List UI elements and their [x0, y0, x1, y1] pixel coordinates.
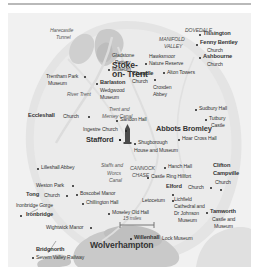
place-label-trentham-park-museum: Museum [48, 81, 67, 86]
place-marker-gladstone-pottery-museum [108, 69, 110, 71]
place-marker-moseley-old-hall [108, 213, 110, 215]
place-label-castle-ring-hillfort: Castle Ring Hillfort [151, 174, 191, 179]
place-label-wedgwood-museum: Museum [100, 95, 119, 100]
place-label-cheadle: Cheadle [132, 71, 153, 77]
place-label-lilleshall-abbey: Lilleshall Abbey [41, 165, 75, 170]
waterway-label-worcs: Worcs [107, 171, 121, 176]
place-label-eccleshall: Eccleshall [28, 113, 55, 119]
place-marker-hawksmoor-nature-reserve [145, 63, 147, 65]
place-label-croxden-abbey: Abbey [153, 92, 167, 97]
place-label-tamworth-museum: Museum [214, 224, 233, 229]
place-label-ironbridge: Ironbridge [26, 212, 53, 218]
place-label-lichfield-museum: Museum [178, 218, 197, 223]
place-marker-tutbury-castle [205, 119, 207, 121]
place-label-croxden: Croxden [153, 85, 172, 90]
place-label-tamworth-castle-and: Castle and [212, 217, 235, 222]
waterway-label-staffs-and: Staffs and [101, 163, 123, 168]
place-marker-severn-valley-railway [32, 257, 34, 259]
place-marker-elford-church [210, 187, 212, 189]
place-marker-wightwick-manor [90, 227, 92, 229]
place-marker-shugborough-house [134, 143, 136, 145]
place-marker-castle-ring-hillfort [147, 177, 149, 179]
region-label-cannock: CANNOCK [130, 166, 155, 171]
place-label-tutbury-castle: Castle [211, 123, 225, 128]
place-marker-trentham-park-museum [84, 76, 86, 78]
place-marker-ashbourne [199, 57, 201, 59]
place-marker-alton-towers [163, 72, 165, 74]
place-label-museum-gladstone: Museum [112, 67, 131, 72]
place-label-harecastle-tunnel: Tunnel [56, 35, 71, 40]
place-label-hoar-cross-hall: Hoar Cross Hall [182, 136, 216, 141]
place-marker-willenhall-lock-museum [130, 238, 132, 240]
place-label-trentham-park: Trentham Park [46, 74, 78, 79]
place-label-fenny-bentley: Fenny Bentley [200, 40, 238, 46]
place-marker-clifton-campville [220, 189, 222, 191]
place-label-abbots-bromley: Abbots Bromley [156, 125, 212, 133]
place-label-ashbourne-church: Church [207, 62, 223, 67]
place-label-pottery: Pottery [115, 60, 130, 65]
place-marker-hoar-cross-hall [178, 139, 180, 141]
place-marker-tissington [199, 34, 201, 36]
place-label-tutbury: Tutbury [209, 116, 225, 121]
place-label-lichfield-cathedral-and: Cathedral and [174, 204, 205, 209]
place-label-weston-park: Weston Park [36, 183, 64, 188]
region-label-manifold: MANIFOLD [159, 37, 185, 42]
map-screenshot: Stoke- on- Trent Wolverhampton Stafford … [0, 0, 259, 271]
place-label-shugborough-house-and-museum: House and Museum [134, 148, 178, 153]
place-marker-sandon-hall [116, 120, 118, 122]
place-label-dr-johnson: Dr Johnson [174, 211, 199, 216]
place-label-willenhall: Willenhall [134, 235, 160, 241]
place-label-ironbridge-gorge: Ironbridge Gorge [16, 203, 53, 208]
place-label-alton-towers: Alton Towers [167, 70, 195, 75]
place-label-chillington-hall: Chillington Hall [86, 200, 118, 205]
place-label-ashbourne: Ashbourne [203, 54, 232, 60]
place-label-tong: Tong [26, 192, 39, 198]
tourist-map-canvas[interactable]: Stoke- on- Trent Wolverhampton Stafford … [8, 13, 251, 267]
place-label-harecastle: Harecastle [50, 28, 73, 33]
place-marker-fenny-bentley [196, 44, 198, 46]
place-label-tamworth: Tamworth [210, 209, 236, 215]
place-label-hawksmoor: Hawksmoor [149, 54, 175, 59]
scale-bar-label: 15 miles [123, 216, 141, 221]
place-marker-ingestre-church [125, 130, 127, 132]
place-label-letocetum: Letocetum [142, 198, 165, 203]
place-label-wightwick-manor: Wightwick Manor [46, 225, 83, 230]
place-marker-eccleshall-church [88, 116, 90, 118]
place-marker-hanch-hall [164, 167, 166, 169]
place-label-shugborough: Shugborough [138, 140, 168, 145]
place-marker-barlaston [96, 83, 98, 85]
place-label-nature-reserve: Nature Reserve [149, 61, 183, 66]
place-label-eccleshall-church: Church [63, 114, 79, 119]
place-label-sandon-hall: Sandon Hall [120, 117, 147, 122]
waterway-label-trent-and: Trent and [109, 107, 130, 112]
place-label-elford: Elford [166, 184, 182, 190]
city-label-stafford: Stafford [86, 136, 114, 144]
place-marker-chillington-hall [82, 203, 84, 205]
place-label-boscobel-manor: Boscobel Manor [80, 191, 115, 196]
place-label-cheadle-church: Church [132, 79, 148, 84]
waterway-label-canal: Canal [109, 178, 122, 183]
place-marker-croxden-abbey [154, 79, 156, 81]
place-label-campville: Campville [213, 171, 239, 177]
city-marker-stafford [119, 139, 121, 141]
place-marker-weston-park [72, 185, 74, 187]
header-divider [8, 3, 251, 5]
place-label-ingestre-church: Ingestre Church [83, 127, 118, 132]
place-marker-lilleshall-abbey [37, 168, 39, 170]
place-label-elford-church: Church [188, 185, 204, 190]
city-label-wolverhampton: Wolverhampton [90, 241, 153, 250]
place-label-barlaston: Barlaston [100, 80, 125, 86]
place-marker-tong-church [66, 195, 68, 197]
place-label-clifton: Clifton [213, 163, 230, 169]
place-label-hanch-hall: Hanch Hall [168, 164, 192, 169]
place-marker-ironbridge [20, 215, 22, 217]
region-label-valley: VALLEY [164, 44, 182, 49]
place-label-gladstone: Gladstone [112, 53, 134, 58]
place-marker-sudbury-hall [195, 109, 197, 111]
place-label-clifton-campville-church: Church [215, 180, 231, 185]
place-label-tissington: Tissington [203, 31, 231, 37]
place-label-bridgnorth: Bridgnorth [36, 247, 64, 253]
place-label-tong-church: Church [44, 193, 60, 198]
place-label-sudbury-hall: Sudbury Hall [199, 106, 227, 111]
place-marker-boscobel-manor [76, 194, 78, 196]
